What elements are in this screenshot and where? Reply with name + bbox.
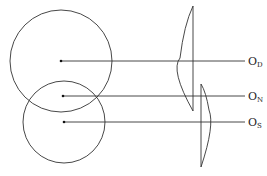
center-dot-d (60, 60, 63, 63)
optics-diagram (0, 0, 267, 176)
center-dot-n (62, 95, 65, 98)
center-dot-s (63, 121, 66, 124)
diagram: OD ON OS (0, 0, 267, 176)
label-on: ON (248, 91, 263, 104)
label-od: OD (248, 56, 263, 69)
label-os: OS (248, 117, 262, 130)
lens-upper (177, 6, 193, 111)
